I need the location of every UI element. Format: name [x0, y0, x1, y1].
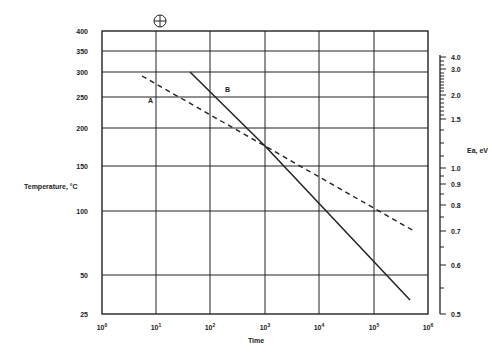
svg-text:3.0: 3.0	[451, 66, 461, 73]
svg-text:105: 105	[369, 322, 380, 331]
svg-text:50: 50	[80, 272, 88, 279]
series-b-label: B	[225, 86, 230, 93]
series-b-line	[190, 72, 410, 300]
svg-text:100: 100	[97, 322, 108, 331]
svg-text:1.0: 1.0	[451, 165, 461, 172]
svg-text:25: 25	[80, 311, 88, 318]
crosshair-circle-icon	[154, 15, 166, 27]
y-tick-labels: 400 350 300 250 200 150 100 50 25	[76, 28, 88, 318]
svg-text:150: 150	[76, 163, 88, 170]
svg-text:200: 200	[76, 125, 88, 132]
chart: A B 400 350 300 250 200 150 100 50 25 Te…	[0, 0, 492, 354]
svg-text:1.5: 1.5	[451, 116, 461, 123]
svg-text:250: 250	[76, 94, 88, 101]
svg-text:0.6: 0.6	[451, 262, 461, 269]
x-axis-label: Time	[248, 337, 264, 344]
svg-text:2.0: 2.0	[451, 92, 461, 99]
ea-axis-label: Ea, eV	[467, 147, 488, 155]
svg-text:400: 400	[76, 28, 88, 35]
svg-text:100: 100	[76, 208, 88, 215]
svg-text:103: 103	[260, 322, 271, 331]
svg-text:0.5: 0.5	[451, 311, 461, 318]
x-tick-labels: 100 101 102 103 104 105 106	[97, 322, 434, 331]
svg-text:4.0: 4.0	[451, 54, 461, 61]
svg-text:0.9: 0.9	[451, 181, 461, 188]
ea-tick-labels: 4.0 3.0 2.0 1.5 1.0 0.9 0.8 0.7 0.6 0.5	[451, 54, 461, 318]
svg-text:102: 102	[205, 322, 216, 331]
svg-text:0.7: 0.7	[451, 228, 461, 235]
ea-axis	[440, 55, 446, 314]
x-gridlines	[156, 31, 374, 314]
series-a-label: A	[148, 97, 153, 104]
svg-text:300: 300	[76, 69, 88, 76]
svg-text:101: 101	[151, 322, 162, 331]
y-axis-label: Temperature, °C	[24, 183, 78, 191]
svg-text:104: 104	[314, 322, 325, 331]
series-a-line	[142, 76, 414, 231]
svg-text:106: 106	[423, 322, 434, 331]
svg-text:0.8: 0.8	[451, 202, 461, 209]
svg-text:350: 350	[76, 48, 88, 55]
